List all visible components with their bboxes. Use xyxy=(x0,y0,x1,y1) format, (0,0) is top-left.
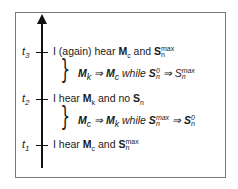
tick-t1 xyxy=(36,145,48,146)
transition-t2-t3: Mk ⇒ Mc while S0n ⇒ Smaxn xyxy=(78,67,195,82)
label-t2: t2 xyxy=(22,92,30,107)
label-t1: t1 xyxy=(22,138,30,153)
time-axis xyxy=(41,22,43,168)
tick-t3 xyxy=(36,52,48,53)
brace-icon: } xyxy=(60,103,70,129)
brace-icon: } xyxy=(60,56,70,82)
tick-t2 xyxy=(36,99,48,100)
label-t3: t3 xyxy=(22,45,30,60)
transition-t1-t2: Mc ⇒ Mk while Smaxn ⇒ S0n xyxy=(78,114,195,129)
event-t3: I (again) hear Mc and Smaxn xyxy=(53,45,174,59)
event-t1: I hear Mc and Smaxn xyxy=(53,138,139,152)
